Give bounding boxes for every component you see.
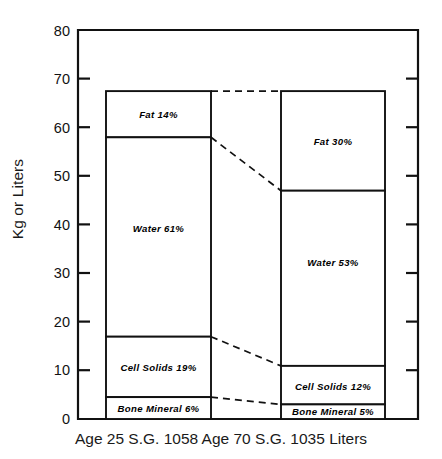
- bar-segment-label-water-age25: Water 61%: [133, 223, 185, 234]
- bar-segment-water-age70: [281, 191, 385, 366]
- y-axis-ticks-left: [78, 79, 90, 371]
- bar-segment-label-fat-age70: Fat 30%: [314, 136, 353, 147]
- bar-age-25: Fat 14% Water 61% Cell Solids 19% Bone M…: [106, 91, 211, 419]
- plot-area: Fat 14% Water 61% Cell Solids 19% Bone M…: [0, 0, 442, 459]
- bar-age-70: Fat 30% Water 53% Cell Solids 12% Bone M…: [281, 91, 385, 419]
- bar-segment-label-bone-mineral-age25: Bone Mineral 6%: [117, 403, 199, 414]
- bar-segment-label-bone-mineral-age70: Bone Mineral 5%: [292, 406, 374, 417]
- connector-lines: [211, 91, 281, 404]
- connector-water-cellsolids: [211, 337, 281, 366]
- chart-figure: Kg or Liters 80 70 60 50 40 30 20 10 0: [0, 0, 442, 459]
- connector-fat-water: [211, 137, 281, 190]
- bar-segment-water-age25: [106, 137, 211, 336]
- connector-cellsolids-bone: [211, 397, 281, 404]
- y-axis-ticks-right: [406, 79, 418, 371]
- bar-segment-label-water-age70: Water 53%: [307, 257, 359, 268]
- bar-segment-label-cell-solids-age70: Cell Solids 12%: [295, 381, 371, 392]
- chart-caption: Age 25 S.G. 1058 Age 70 S.G. 1035 Liters: [0, 430, 442, 448]
- bar-segment-label-cell-solids-age25: Cell Solids 19%: [120, 362, 196, 373]
- bar-segment-label-fat-age25: Fat 14%: [139, 109, 178, 120]
